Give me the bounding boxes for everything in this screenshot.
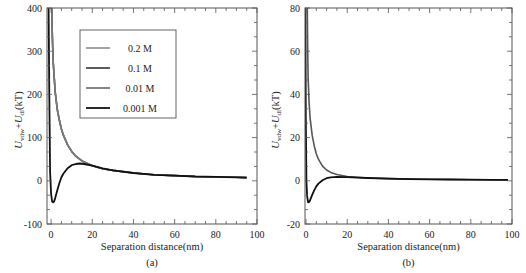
x-tick-label: 80 [211,229,221,240]
legend-entry-label: 0.1 M [128,63,152,74]
y-tick-label: 80 [290,3,300,14]
x-tick-label: 100 [250,229,265,240]
y-tick-label: 60 [290,46,300,57]
x-axis-label: Separation distance(nm) [357,241,460,253]
x-axis-label: Separation distance(nm) [101,241,204,253]
y-tick-label: 200 [27,89,42,100]
y-axis-label: Uvdw+Udl(kT) [13,91,26,149]
chart-panel-a: 020406080100-1000100200300400Separation … [13,3,265,270]
figure: 020406080100-1000100200300400Separation … [0,0,526,273]
x-tick-label: 40 [128,229,138,240]
y-tick-label: 100 [27,132,42,143]
y-tick-label: -20 [287,219,300,230]
legend: 0.2 M0.1 M0.01 M0.001 M [80,30,176,118]
panel-caption: (b) [402,257,415,269]
series-line-upper [307,8,508,180]
plot-frame [305,8,512,224]
x-tick-label: 80 [466,229,476,240]
y-tick-label: 40 [290,89,300,100]
legend-entry-label: 0.2 M [128,43,152,54]
y-axis-label: Uvdw+Udl(kT) [270,91,283,149]
y-tick-label: 0 [295,175,300,186]
y-tick-label: 0 [37,175,42,186]
series-group [305,8,508,202]
y-tick-label: 20 [290,132,300,143]
legend-entry-label: 0.001 M [123,103,157,114]
x-tick-label: 100 [505,229,520,240]
legend-entry-label: 0.01 M [126,83,155,94]
x-tick-label: 20 [87,229,97,240]
x-tick-label: 0 [49,229,54,240]
x-tick-label: 60 [425,229,435,240]
x-tick-label: 60 [170,229,180,240]
x-tick-label: 40 [383,229,393,240]
y-tick-label: 400 [27,3,42,14]
panel-caption: (a) [146,257,158,269]
y-tick-label: 300 [27,46,42,57]
y-tick-label: -100 [24,219,42,230]
x-tick-label: 20 [342,229,352,240]
chart-panel-b: 020406080100-20020406080Separation dista… [270,3,520,270]
x-tick-label: 0 [304,229,309,240]
series-line-lower [305,8,508,202]
